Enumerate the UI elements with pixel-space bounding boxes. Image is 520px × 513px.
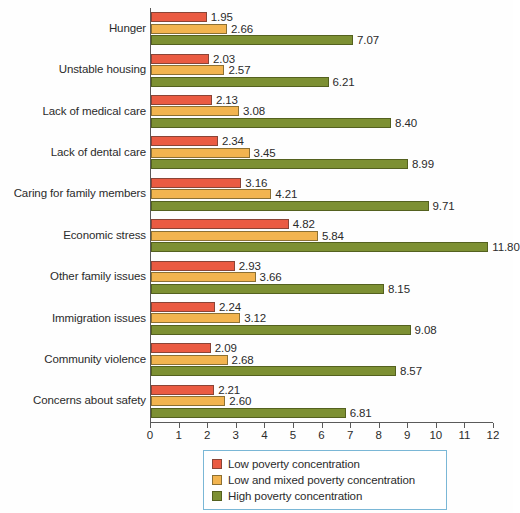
bar[interactable] [151,77,329,87]
bar[interactable] [151,343,211,353]
x-axis-tick-label: 7 [347,429,353,441]
x-axis-tick-label: 10 [429,429,442,441]
x-axis-tick-label: 2 [204,429,210,441]
bar[interactable] [151,355,228,365]
x-axis-tick [464,423,465,428]
bar-value-label: 3.45 [254,147,276,159]
bar[interactable] [151,366,396,376]
bar-value-label: 9.08 [415,324,437,336]
legend-item[interactable]: Low poverty concentration [212,456,439,472]
bar[interactable] [151,261,235,271]
bar-value-label: 3.16 [245,177,267,189]
x-axis-tick [350,423,351,428]
bar-row: 11.80 [151,242,494,252]
legend-label: Low poverty concentration [228,458,360,470]
x-axis: 0123456789101112 [150,422,493,447]
bar[interactable] [151,302,215,312]
bar[interactable] [151,408,346,418]
bar-value-label: 4.82 [293,218,315,230]
legend-item[interactable]: High poverty concentration [212,488,439,504]
bar-value-label: 2.68 [232,354,254,366]
x-axis-tick [436,423,437,428]
bar-value-label: 9.71 [433,200,455,212]
bar[interactable] [151,231,318,241]
bar-row: 8.99 [151,159,494,169]
x-axis-tick-label: 5 [290,429,296,441]
bar-value-label: 3.08 [243,105,265,117]
bar-row: 7.07 [151,35,494,45]
bar-value-label: 3.12 [244,312,266,324]
bar[interactable] [151,65,224,75]
legend-swatch-icon [212,459,222,469]
bar-row: 3.08 [151,106,494,116]
bar-value-label: 2.57 [228,64,250,76]
chart-legend: Low poverty concentrationLow and mixed p… [203,450,447,510]
bar-row: 2.68 [151,355,494,365]
bar[interactable] [151,95,212,105]
bar-value-label: 2.60 [229,395,251,407]
bar-row: 3.66 [151,272,494,282]
bar[interactable] [151,242,488,252]
category-label: Economic stress [0,229,146,241]
x-axis-tick [179,423,180,428]
x-axis-tick-label: 0 [147,429,153,441]
bar[interactable] [151,24,227,34]
x-axis-tick-label: 4 [261,429,267,441]
x-axis-tick [322,423,323,428]
legend-item[interactable]: Low and mixed poverty concentration [212,472,439,488]
category-label: Unstable housing [0,63,146,75]
bar[interactable] [151,313,240,323]
bar-value-label: 2.24 [219,301,241,313]
bar-group: 2.243.129.08 [151,298,494,339]
bar[interactable] [151,35,353,45]
bar[interactable] [151,136,218,146]
bar-value-label: 8.99 [412,158,434,170]
bar-value-label: 2.13 [216,94,238,106]
bar[interactable] [151,118,391,128]
bar[interactable] [151,189,271,199]
bar[interactable] [151,54,209,64]
bar-row: 8.15 [151,284,494,294]
legend-label: Low and mixed poverty concentration [228,474,415,486]
category-label: Caring for family members [0,187,146,199]
bar-row: 2.60 [151,396,494,406]
bar[interactable] [151,396,225,406]
bar-value-label: 6.81 [350,407,372,419]
bar-value-label: 11.80 [492,241,519,253]
bar-row: 2.03 [151,54,494,64]
bar[interactable] [151,325,411,335]
plot-area: 1.952.667.072.032.576.212.133.088.402.34… [150,8,494,422]
bar-row: 3.45 [151,148,494,158]
legend-swatch-icon [212,475,222,485]
bar-group: 4.825.8411.80 [151,215,494,256]
x-axis-tick [236,423,237,428]
bar-value-label: 4.21 [275,188,297,200]
bar[interactable] [151,159,408,169]
category-label: Community violence [0,353,146,365]
bar-row: 4.82 [151,219,494,229]
bar-row: 2.24 [151,302,494,312]
bar-row: 6.21 [151,77,494,87]
bar-value-label: 5.84 [322,230,344,242]
bar-row: 9.08 [151,325,494,335]
bar[interactable] [151,148,250,158]
bar[interactable] [151,219,289,229]
bar[interactable] [151,201,429,211]
x-axis-tick-label: 12 [487,429,500,441]
bar-row: 2.66 [151,24,494,34]
bar[interactable] [151,106,239,116]
bar[interactable] [151,178,241,188]
bar[interactable] [151,385,214,395]
x-axis-tick [379,423,380,428]
bar-value-label: 2.66 [231,23,253,35]
bar[interactable] [151,12,207,22]
bar-row: 1.95 [151,12,494,22]
bar-row: 3.12 [151,313,494,323]
bar[interactable] [151,272,256,282]
category-label: Immigration issues [0,312,146,324]
legend-swatch-icon [212,491,222,501]
bar-value-label: 2.34 [222,135,244,147]
x-axis-tick [293,423,294,428]
bar[interactable] [151,284,384,294]
